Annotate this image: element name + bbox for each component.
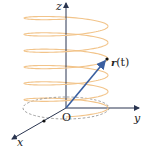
helix-diagram: z y x O r(t) [0, 0, 153, 154]
y-axis-label: y [133, 112, 141, 125]
x-axis-label: x [17, 136, 24, 149]
origin-label: O [62, 111, 71, 124]
vector-arg: (t) [116, 56, 129, 69]
x-axis-point [42, 119, 45, 122]
position-vector-label: r(t) [111, 56, 129, 69]
x-axis [12, 108, 66, 139]
helix-segment [24, 18, 66, 19]
diagram-canvas: z y x O r(t) [0, 0, 153, 154]
helix-segment [66, 107, 108, 117]
z-axis-label: z [55, 0, 62, 13]
vector-tip-point [105, 57, 108, 60]
